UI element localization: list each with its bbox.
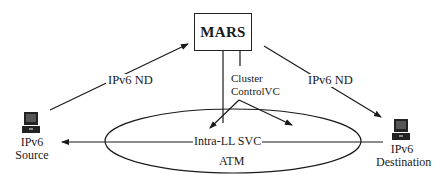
cluster-label-line2: ControlVC [231,85,280,98]
source-computer-icon [22,112,40,133]
intra-ll-svc-label: Intra-LL SVC [193,135,262,148]
ipv6-nd-right-label: IPv6 ND [306,74,355,87]
mars-label: MARS [200,24,245,41]
cluster-vc-branch-left [210,100,239,128]
destination-label-line2: Destination [376,156,428,169]
cluster-vc-branch-right [239,100,292,125]
mars-server-box: MARS [194,13,252,51]
cluster-label-line1: Cluster [231,72,280,85]
ipv6-nd-left-label: IPv6 ND [106,74,155,87]
destination-node-label: IPv6 Destination [376,143,428,169]
atm-label: ATM [219,155,244,168]
destination-computer-icon [392,119,410,140]
cluster-control-vc-label: Cluster ControlVC [231,72,280,98]
source-label-line2: Source [12,149,52,162]
source-node-label: IPv6 Source [12,136,52,162]
